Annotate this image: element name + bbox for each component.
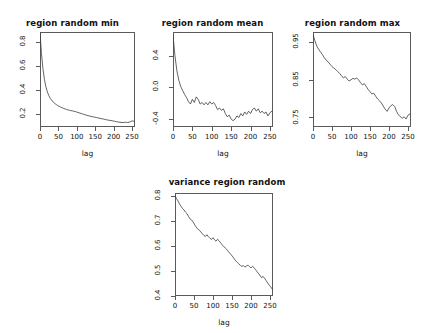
x-tick-mark [231, 127, 232, 131]
plot-panel-1: region random min0.20.40.60.805010015020… [0, 0, 425, 333]
x-tick-label: 150 [218, 133, 244, 141]
x-tick-label: 250 [395, 133, 421, 141]
x-tick-mark [389, 127, 390, 131]
x-tick-mark [77, 127, 78, 131]
y-tick-mark [36, 90, 40, 91]
x-tick-label: 250 [257, 302, 283, 310]
y-tick-label: 0.95 [292, 30, 300, 52]
y-tick-mark [171, 246, 175, 247]
x-tick-mark [270, 127, 271, 131]
x-tick-label: 0 [162, 302, 188, 310]
y-tick-mark [171, 271, 175, 272]
x-tick-mark [194, 296, 195, 300]
x-tick-label: 100 [64, 133, 90, 141]
y-tick-label: 0.4 [19, 78, 27, 100]
plot-panel-3: region random max0.750.850.9505010015020… [0, 0, 425, 333]
series-line [313, 32, 411, 127]
plot-panel-2: region random mean-0.40.00.4050100150200… [0, 0, 425, 333]
x-axis-title: lag [173, 149, 273, 158]
x-tick-label: 200 [238, 302, 264, 310]
x-tick-label: 50 [319, 133, 345, 141]
plot-title: region random mean [145, 18, 280, 28]
x-tick-label: 0 [160, 133, 186, 141]
y-tick-mark [309, 117, 313, 118]
series-line [175, 193, 273, 296]
x-tick-label: 0 [300, 133, 326, 141]
y-tick-mark [171, 196, 175, 197]
x-tick-mark [40, 127, 41, 131]
plot-frame [175, 193, 273, 296]
series-line [173, 32, 273, 127]
x-tick-label: 200 [101, 133, 127, 141]
x-tick-label: 50 [181, 302, 207, 310]
x-tick-mark [332, 127, 333, 131]
x-tick-mark [232, 296, 233, 300]
y-tick-label: -0.4 [152, 107, 160, 129]
series-line [40, 32, 135, 127]
x-axis-title: lag [40, 149, 135, 158]
plot-area [173, 32, 273, 127]
x-tick-mark [95, 127, 96, 131]
plot-title: variance region random [147, 177, 307, 187]
x-tick-mark [175, 296, 176, 300]
x-tick-label: 100 [199, 133, 225, 141]
y-tick-mark [309, 42, 313, 43]
x-tick-mark [408, 127, 409, 131]
x-tick-mark [212, 127, 213, 131]
y-tick-mark [169, 56, 173, 57]
y-tick-mark [171, 296, 175, 297]
x-tick-label: 100 [200, 302, 226, 310]
x-axis-title: lag [313, 149, 411, 158]
x-tick-mark [270, 296, 271, 300]
x-tick-label: 200 [376, 133, 402, 141]
y-tick-label: 0.5 [154, 259, 162, 281]
x-tick-mark [58, 127, 59, 131]
x-tick-mark [370, 127, 371, 131]
x-tick-label: 50 [45, 133, 71, 141]
x-tick-label: 250 [119, 133, 145, 141]
y-tick-label: 0.4 [152, 44, 160, 66]
x-tick-label: 200 [238, 133, 264, 141]
y-tick-label: 0.6 [154, 234, 162, 256]
y-tick-mark [36, 66, 40, 67]
x-tick-mark [114, 127, 115, 131]
y-tick-mark [36, 42, 40, 43]
x-tick-mark [351, 127, 352, 131]
y-tick-mark [169, 119, 173, 120]
plot-title: region random max [285, 18, 420, 28]
y-tick-label: 0.85 [292, 68, 300, 90]
x-tick-mark [251, 127, 252, 131]
x-tick-mark [251, 296, 252, 300]
plot-area [175, 193, 273, 296]
y-tick-mark [171, 221, 175, 222]
plot-area [40, 32, 135, 127]
x-tick-label: 50 [179, 133, 205, 141]
plot-frame [40, 32, 135, 127]
x-tick-label: 250 [257, 133, 283, 141]
x-tick-label: 150 [357, 133, 383, 141]
x-tick-label: 100 [338, 133, 364, 141]
plot-area [313, 32, 411, 127]
y-tick-label: 0.6 [19, 54, 27, 76]
y-tick-label: 0.4 [154, 284, 162, 306]
plot-frame [313, 32, 411, 127]
plot-frame [173, 32, 273, 127]
x-tick-mark [173, 127, 174, 131]
x-tick-mark [192, 127, 193, 131]
y-tick-mark [169, 87, 173, 88]
y-tick-label: 0.8 [154, 184, 162, 206]
y-tick-mark [36, 114, 40, 115]
y-tick-label: 0.8 [19, 30, 27, 52]
y-tick-label: 0.2 [19, 102, 27, 124]
x-tick-mark [313, 127, 314, 131]
y-tick-label: 0.7 [154, 209, 162, 231]
x-tick-label: 150 [219, 302, 245, 310]
y-tick-label: 0.75 [292, 106, 300, 128]
plot-title: region random min [5, 18, 140, 28]
x-tick-label: 150 [82, 133, 108, 141]
x-axis-title: lag [175, 318, 273, 327]
x-tick-mark [132, 127, 133, 131]
plot-panel-4: variance region random0.40.50.60.70.8050… [0, 0, 425, 333]
y-tick-mark [309, 80, 313, 81]
x-tick-label: 0 [27, 133, 53, 141]
